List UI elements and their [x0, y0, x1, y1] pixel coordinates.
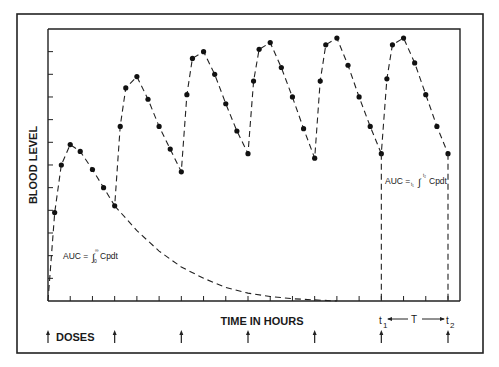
svg-text:t₁: t₁ — [411, 182, 414, 187]
svg-text:Cpdt: Cpdt — [100, 251, 119, 261]
dosing-interval-marker: t 1 T t 2 — [379, 314, 455, 330]
dose-arrows — [46, 330, 450, 343]
svg-text:t: t — [379, 315, 382, 326]
y-axis-ticks — [48, 52, 53, 279]
auc-infinity-annotation: AUC = ∫ ∞ 0 Cpdt — [63, 247, 119, 264]
svg-text:0: 0 — [94, 258, 97, 264]
auc-interval-annotation: AUC = t₁ ∫ t₂ Cpdt — [385, 173, 448, 188]
svg-text:∫: ∫ — [417, 177, 422, 188]
svg-text:1: 1 — [383, 321, 388, 330]
svg-text:Cpdt: Cpdt — [429, 176, 448, 186]
y-axis-label: BLOOD LEVEL — [27, 126, 39, 205]
svg-text:AUC =: AUC = — [63, 251, 88, 261]
svg-text:AUC =: AUC = — [385, 176, 410, 186]
arrow-right-icon — [440, 317, 445, 321]
x-axis-label: TIME IN HOURS — [220, 315, 303, 327]
single-dose-decay-curve — [115, 206, 337, 301]
svg-text:t: t — [446, 315, 449, 326]
doses-label: DOSES — [56, 331, 95, 343]
data-point-markers — [52, 35, 451, 215]
svg-text:T: T — [411, 314, 417, 325]
pharmacokinetic-chart: BLOOD LEVEL TIME IN HOURS AUC = ∫ ∞ 0 Cp… — [0, 0, 499, 367]
arrow-left-icon — [387, 317, 392, 321]
svg-text:t₂: t₂ — [423, 173, 426, 178]
svg-text:2: 2 — [450, 321, 455, 330]
svg-text:∞: ∞ — [95, 247, 99, 253]
x-axis-ticks — [70, 296, 448, 301]
